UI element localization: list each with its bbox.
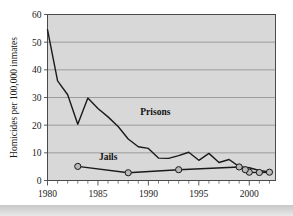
footer-bar	[0, 205, 293, 216]
y-axis-title: Homicides per 100,000 inmates	[9, 37, 19, 158]
y-axis-tick-label: 30	[32, 93, 42, 103]
x-axis-tick-label: 2000	[240, 189, 259, 199]
line-chart: 010203040506019801985199019952000Homicid…	[0, 0, 293, 216]
data-point-jails	[242, 167, 248, 173]
series-label-jails: Jails	[99, 152, 118, 162]
x-axis-tick-label: 1990	[139, 189, 158, 199]
data-point-jails	[75, 163, 81, 169]
data-point-jails	[176, 167, 182, 173]
y-axis-tick-label: 60	[32, 10, 42, 20]
data-point-jails	[266, 169, 272, 175]
data-point-jails	[125, 170, 131, 176]
y-axis-tick-label: 10	[32, 148, 42, 158]
data-point-jails	[236, 164, 242, 170]
x-axis-tick-label: 1985	[88, 189, 107, 199]
y-axis-tick-label: 0	[37, 176, 42, 186]
x-axis-tick-label: 1995	[189, 189, 208, 199]
series-label-prisons: Prisons	[140, 107, 170, 117]
y-axis-tick-label: 50	[32, 38, 42, 48]
data-point-jails	[256, 169, 262, 175]
y-axis-tick-label: 20	[32, 121, 42, 131]
chart-figure: 010203040506019801985199019952000Homicid…	[0, 0, 293, 216]
x-axis-tick-label: 1980	[38, 189, 57, 199]
y-axis-tick-label: 40	[32, 65, 42, 75]
